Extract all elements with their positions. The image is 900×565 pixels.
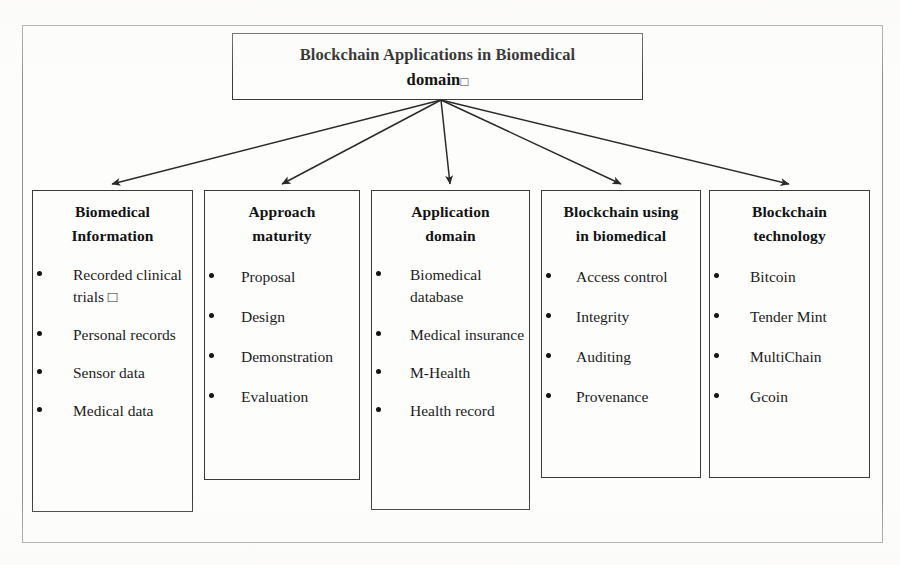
diagram-canvas: Blockchain Applications in Biomedical do… [0, 0, 900, 565]
category-heading: Blockchain technology [710, 191, 869, 248]
list-item-label: Provenance [576, 388, 648, 405]
category-heading: Approach maturity [205, 191, 359, 248]
bullet-icon [714, 353, 719, 358]
category-item-list: Bitcoin Tender Mint MultiChain Gcoin [710, 266, 869, 408]
list-item-label: Recorded clinical trials □ [73, 266, 182, 305]
bullet-icon [714, 393, 719, 398]
bullet-icon [209, 313, 214, 318]
list-item: Gcoin [710, 386, 869, 408]
list-item-label: Medical insurance [410, 326, 524, 343]
category-heading: Blockchain using in biomedical [542, 191, 700, 248]
list-item: Evaluation [205, 386, 359, 408]
category-heading-line-2: maturity [252, 227, 311, 244]
list-item-label: Bitcoin [750, 268, 796, 285]
title-line-2: domain [407, 70, 461, 89]
list-item-label: M-Health [410, 364, 470, 381]
list-item: Health record [372, 400, 529, 422]
list-item: Recorded clinical trials □ [33, 264, 192, 308]
bullet-icon [209, 273, 214, 278]
category-item-list: Access control Integrity Auditing Proven… [542, 266, 700, 408]
list-item: Integrity [542, 306, 700, 328]
category-box-biomedical-information: Biomedical Information Recorded clinical… [32, 190, 193, 512]
list-item: Medical insurance [372, 324, 529, 346]
list-item-label: Demonstration [241, 348, 333, 365]
bullet-icon [714, 313, 719, 318]
bullet-icon [376, 271, 381, 276]
bullet-icon [376, 331, 381, 336]
bullet-icon [37, 331, 42, 336]
category-heading-line-1: Blockchain using [564, 203, 679, 220]
category-heading-line-2: domain [425, 227, 476, 244]
category-heading-line-2: technology [753, 227, 825, 244]
category-box-application-domain: Application domain Biomedical database M… [371, 190, 530, 510]
category-box-blockchain-using-in-biomedical: Blockchain using in biomedical Access co… [541, 190, 701, 478]
category-heading: Application domain [372, 191, 529, 248]
category-box-blockchain-technology: Blockchain technology Bitcoin Tender Min… [709, 190, 870, 478]
list-item-label: Health record [410, 402, 495, 419]
list-item: Personal records [33, 324, 192, 346]
category-heading-line-1: Biomedical [75, 203, 150, 220]
bullet-icon [546, 393, 551, 398]
list-item-label: Biomedical database [410, 266, 481, 305]
bullet-icon [714, 273, 719, 278]
bullet-icon [209, 393, 214, 398]
list-item: Bitcoin [710, 266, 869, 288]
title-box: Blockchain Applications in Biomedical do… [232, 33, 643, 100]
bullet-icon [37, 369, 42, 374]
category-box-approach-maturity: Approach maturity Proposal Design Demons… [204, 190, 360, 480]
list-item: M-Health [372, 362, 529, 384]
category-heading: Biomedical Information [33, 191, 192, 248]
bullet-icon [37, 407, 42, 412]
list-item: Tender Mint [710, 306, 869, 328]
list-item-label: Medical data [73, 402, 153, 419]
category-item-list: Biomedical database Medical insurance M-… [372, 264, 529, 422]
list-item: Access control [542, 266, 700, 288]
bullet-icon [546, 273, 551, 278]
list-item-label: Design [241, 308, 285, 325]
category-heading-line-1: Blockchain [752, 203, 827, 220]
list-item-label: Access control [576, 268, 668, 285]
list-item: Design [205, 306, 359, 328]
list-item-label: Tender Mint [750, 308, 827, 325]
list-item-label: MultiChain [750, 348, 821, 365]
bullet-icon [37, 271, 42, 276]
list-item: Biomedical database [372, 264, 529, 308]
title-line-1: Blockchain Applications in Biomedical [300, 45, 576, 64]
category-item-list: Recorded clinical trials □ Personal reco… [33, 264, 192, 422]
bullet-icon [376, 407, 381, 412]
list-item: Demonstration [205, 346, 359, 368]
list-item-label: Gcoin [750, 388, 788, 405]
list-item: Medical data [33, 400, 192, 422]
bullet-icon [546, 313, 551, 318]
bullet-icon [546, 353, 551, 358]
title-box-glyph-icon: □ [460, 75, 468, 88]
list-item-label: Evaluation [241, 388, 308, 405]
list-item: MultiChain [710, 346, 869, 368]
category-heading-line-1: Approach [249, 203, 316, 220]
bullet-icon [209, 353, 214, 358]
list-item-label: Sensor data [73, 364, 145, 381]
category-item-list: Proposal Design Demonstration Evaluation [205, 266, 359, 408]
list-item: Proposal [205, 266, 359, 288]
list-item: Provenance [542, 386, 700, 408]
category-heading-line-2: in biomedical [576, 227, 666, 244]
list-item-label: Auditing [576, 348, 631, 365]
list-item-label: Personal records [73, 326, 176, 343]
title-text: Blockchain Applications in Biomedical do… [290, 42, 586, 92]
list-item-label: Proposal [241, 268, 295, 285]
list-item: Auditing [542, 346, 700, 368]
category-heading-line-2: Information [71, 227, 153, 244]
category-heading-line-1: Application [411, 203, 490, 220]
list-item: Sensor data [33, 362, 192, 384]
bullet-icon [376, 369, 381, 374]
list-item-label: Integrity [576, 308, 629, 325]
